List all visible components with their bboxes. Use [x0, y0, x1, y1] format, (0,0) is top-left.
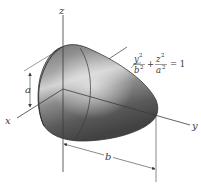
y-axis-label: y — [191, 120, 198, 131]
x-axis-label: x — [5, 115, 11, 126]
svg-text:a: a — [156, 65, 161, 75]
svg-text:2: 2 — [140, 64, 144, 70]
a-dimension-label: a — [25, 84, 31, 95]
b-dimension-label: b — [105, 151, 111, 162]
svg-text:2: 2 — [162, 64, 166, 70]
svg-text:+: + — [147, 59, 154, 69]
svg-text:b: b — [134, 65, 139, 75]
surface-equation: y 2 b 2 + z 2 a 2 = 1 — [133, 52, 185, 75]
svg-text:2: 2 — [161, 52, 165, 58]
svg-text:= 1: = 1 — [170, 59, 185, 69]
paraboloid-diagram: z x y a b y 2 b 2 + z 2 a 2 = 1 — [0, 0, 201, 188]
svg-text:2: 2 — [139, 52, 143, 58]
z-axis-label: z — [58, 5, 65, 16]
